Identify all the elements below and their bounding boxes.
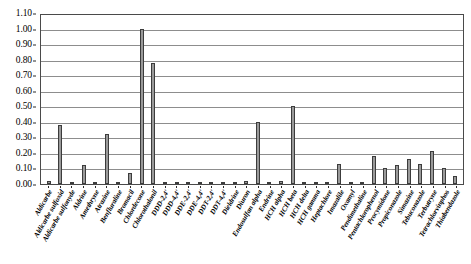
bar-slot	[252, 15, 264, 184]
bar	[47, 181, 51, 184]
bar-slot	[438, 15, 450, 184]
bar	[291, 106, 295, 184]
bar-slot	[124, 15, 136, 184]
x-axis-tick-mark	[48, 186, 49, 188]
bar	[302, 182, 306, 184]
x-axis-tick-mark	[270, 186, 271, 188]
bar-slot	[171, 15, 183, 184]
bar	[58, 125, 62, 184]
bar-slot	[43, 15, 55, 184]
y-axis-tick-label: 0.40	[16, 118, 32, 128]
bar	[221, 182, 225, 184]
x-axis-tick-mark	[200, 186, 201, 188]
bar-slot	[229, 15, 241, 184]
bar	[163, 182, 167, 184]
bar-slot	[66, 15, 78, 184]
bar	[175, 182, 179, 184]
x-axis-slot: Aldrine	[77, 186, 89, 264]
bar	[116, 182, 120, 184]
bar-slot	[298, 15, 310, 184]
bar-slot	[240, 15, 252, 184]
x-axis-tick-mark	[445, 186, 446, 188]
bar-slot	[380, 15, 392, 184]
bar-slot	[310, 15, 322, 184]
bar	[418, 164, 422, 184]
x-axis-tick-mark	[223, 186, 224, 188]
y-axis-tick-mark	[33, 14, 36, 15]
y-axis-tick-mark	[33, 185, 36, 186]
bar-slot	[275, 15, 287, 184]
bar-slot	[403, 15, 415, 184]
y-axis-tick-label: 0.80	[16, 56, 32, 66]
y-axis: 1.101.000.900.800.700.600.500.400.300.20…	[0, 14, 36, 185]
y-axis-tick-mark	[33, 29, 36, 30]
bar-slot	[194, 15, 206, 184]
bar-slot	[426, 15, 438, 184]
bar	[279, 181, 283, 184]
bar	[442, 168, 446, 184]
bar	[244, 181, 248, 184]
x-axis: AldicarbeAldicarbe sulfoxidAldicarbe sul…	[40, 186, 464, 264]
plot-area	[40, 14, 464, 185]
x-axis-tick-mark	[351, 186, 352, 188]
x-axis-tick-mark	[328, 186, 329, 188]
x-axis-tick-mark	[153, 186, 154, 188]
bar	[233, 182, 237, 184]
bar	[70, 182, 74, 184]
bar	[453, 176, 457, 184]
x-axis-slot: DDT-4,4'	[217, 186, 229, 264]
y-axis-tick-label: 1.10	[16, 9, 32, 19]
y-axis-tick-label: 0.60	[16, 87, 32, 97]
bar	[93, 182, 97, 184]
x-axis-tick-mark	[141, 186, 142, 188]
y-axis-tick-mark	[33, 107, 36, 108]
x-axis-tick-mark	[375, 186, 376, 188]
x-axis-tick-mark	[398, 186, 399, 188]
bar-slot	[113, 15, 125, 184]
x-axis-slot: Thiabendazole	[451, 186, 463, 264]
bar-slot	[55, 15, 67, 184]
x-axis-slot: Propiconazole	[392, 186, 404, 264]
x-axis-tick-mark	[211, 186, 212, 188]
bar-slot	[78, 15, 90, 184]
x-axis-tick-mark	[281, 186, 282, 188]
bar	[82, 165, 86, 184]
bar-slot	[415, 15, 427, 184]
x-axis-tick-mark	[130, 186, 131, 188]
bar-slot	[264, 15, 276, 184]
x-axis-tick-mark	[246, 186, 247, 188]
bar-slot	[147, 15, 159, 184]
x-axis-tick-mark	[340, 186, 341, 188]
y-axis-tick-mark	[33, 169, 36, 170]
x-axis-tick-mark	[421, 186, 422, 188]
bar-slot	[287, 15, 299, 184]
bar-slot	[159, 15, 171, 184]
x-axis-tick-mark	[316, 186, 317, 188]
x-axis-tick-mark	[83, 186, 84, 188]
y-axis-tick-mark	[33, 122, 36, 123]
bar	[407, 159, 411, 184]
x-axis-slot: Chlorothalonil	[147, 186, 159, 264]
bar-slot	[368, 15, 380, 184]
bar	[395, 165, 399, 184]
bar	[209, 182, 213, 184]
bar-slot	[345, 15, 357, 184]
y-axis-tick-label: 1.00	[16, 25, 32, 35]
bar	[383, 168, 387, 184]
y-axis-tick-mark	[33, 60, 36, 61]
bar	[360, 182, 364, 184]
bar-slot	[89, 15, 101, 184]
bar-slot	[136, 15, 148, 184]
bar-slot	[449, 15, 461, 184]
bar	[186, 182, 190, 184]
x-axis-slot: DDE-2,4'	[182, 186, 194, 264]
bar	[337, 164, 341, 184]
y-axis-tick-mark	[33, 45, 36, 46]
bar-chart: 1.101.000.900.800.700.600.500.400.300.20…	[0, 0, 471, 264]
x-axis-tick-mark	[118, 186, 119, 188]
x-axis-slot: HCH beta	[287, 186, 299, 264]
bar-slot	[101, 15, 113, 184]
x-axis-tick-mark	[95, 186, 96, 188]
bar	[128, 173, 132, 184]
bar-slot	[182, 15, 194, 184]
